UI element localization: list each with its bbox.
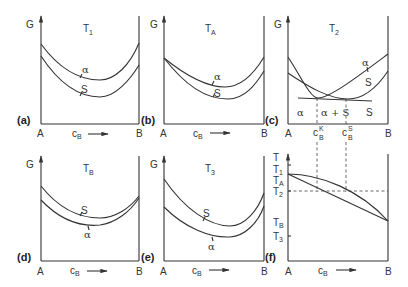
g-axis-label: G xyxy=(274,19,282,30)
panel-e: G T3 S α (e) A B cB xyxy=(141,156,268,277)
x-axis-variable: cB xyxy=(192,265,202,277)
s-curve xyxy=(41,56,139,97)
panel-f: T T1 TA T2 TB T3 (f) A B cB xyxy=(265,152,392,277)
g-axis-label: G xyxy=(150,159,158,170)
region-alpha: α xyxy=(297,107,304,118)
g-axis-label: G xyxy=(26,159,34,170)
x-label-a: A xyxy=(160,266,167,277)
x-axis-variable: cB xyxy=(318,265,328,277)
alpha-label: α xyxy=(214,71,221,82)
s-label: S xyxy=(365,77,372,88)
x-label-a: A xyxy=(37,266,44,277)
x-label-b: B xyxy=(261,128,268,139)
region-s: S xyxy=(366,107,373,118)
panel-label: (c) xyxy=(265,114,279,126)
temperature-label: TB xyxy=(83,163,94,176)
ck-label: c xyxy=(313,127,318,138)
cs-label: c xyxy=(342,127,347,138)
x-label-a: A xyxy=(285,266,292,277)
tick-tb: TB xyxy=(273,217,284,229)
t-axis-label: T xyxy=(273,152,279,163)
panel-d: G TB S α (d) A B cB xyxy=(17,156,143,277)
x-label-a: A xyxy=(160,128,167,139)
x-label-a: A xyxy=(285,128,292,139)
tick-t2: T2 xyxy=(273,186,283,198)
svg-text:B: B xyxy=(319,134,324,141)
svg-text:S: S xyxy=(348,125,353,132)
svg-text:B: B xyxy=(348,134,353,141)
panel-label: (f) xyxy=(265,251,276,263)
alpha-label: α xyxy=(82,64,89,75)
alpha-curve xyxy=(164,206,264,237)
region-alpha-plus-s: α + S xyxy=(321,107,349,118)
panel-label: (e) xyxy=(141,251,155,263)
solidus-line xyxy=(288,174,388,221)
x-axis-variable: cB xyxy=(193,128,203,140)
s-curve xyxy=(164,179,264,226)
s-label: S xyxy=(81,205,88,216)
temperature-label: T2 xyxy=(329,23,339,36)
s-curve xyxy=(288,71,388,99)
temperature-label: T3 xyxy=(205,163,215,176)
temperature-label: T1 xyxy=(83,23,93,36)
alpha-label: α xyxy=(208,241,215,252)
alpha-label: α xyxy=(84,229,91,240)
x-label-b: B xyxy=(136,128,143,139)
temperature-label: TA xyxy=(205,23,216,36)
phase-diagram-figure: G T1 α S (a) A B cB G TA α S (b) A B cB xyxy=(0,0,408,287)
x-label-a: A xyxy=(37,128,44,139)
panel-label: (a) xyxy=(17,114,31,126)
x-axis-variable: cB xyxy=(72,128,82,140)
s-label: S xyxy=(203,208,210,219)
panel-label: (b) xyxy=(141,114,155,126)
x-label-b: B xyxy=(136,266,143,277)
x-label-b: B xyxy=(385,266,392,277)
alpha-curve xyxy=(288,54,388,98)
g-axis-label: G xyxy=(26,19,34,30)
g-axis-label: G xyxy=(150,19,158,30)
panel-c: G T2 α S α α + S S (c) A B c K B c S B xyxy=(265,16,392,141)
panel-b: G TA α S (b) A B cB xyxy=(141,16,268,140)
panel-a: G T1 α S (a) A B cB xyxy=(17,16,143,140)
x-label-b: B xyxy=(385,128,392,139)
tick-t3: T3 xyxy=(273,231,283,243)
alpha-curve xyxy=(41,198,139,225)
panel-label: (d) xyxy=(17,251,31,263)
svg-text:K: K xyxy=(319,125,324,132)
s-label: S xyxy=(214,88,221,99)
x-axis-variable: cB xyxy=(70,265,80,277)
s-label: S xyxy=(81,84,88,95)
alpha-label: α xyxy=(362,57,369,68)
x-label-b: B xyxy=(261,266,268,277)
